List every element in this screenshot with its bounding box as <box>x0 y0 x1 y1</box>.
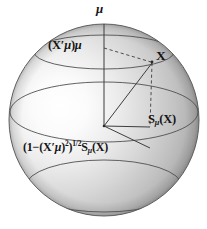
point-x-text: X <box>156 48 166 63</box>
bot-half-exponent: 1/2 <box>72 139 81 148</box>
proj-mu-outer: μ <box>75 38 82 52</box>
label-mu-text: μ <box>96 1 103 16</box>
smux-arg: X <box>163 112 172 126</box>
smux-s: S <box>148 112 155 126</box>
label-projection: (X′μ)μ <box>48 39 82 52</box>
bot-s-paren-close: ) <box>104 140 108 154</box>
label-point-x: X <box>156 49 166 63</box>
bot-s-arg: X <box>96 140 104 154</box>
label-tangent-vector: Sμ(X) <box>148 113 176 126</box>
sphere-diagram-figure: μ (X′μ)μ X Sμ(X) (1−(X′μ)2)1/2Sμ(X) <box>0 0 207 229</box>
proj-x: X <box>52 38 61 52</box>
smux-paren-close: ) <box>172 112 176 126</box>
point-x-marker <box>151 61 154 64</box>
label-scaled-tangent: (1−(X′μ)2)1/2Sμ(X) <box>23 141 108 153</box>
center-marker <box>103 125 106 128</box>
bot-x: X <box>43 140 51 154</box>
proj-mu-inner: μ <box>64 38 71 52</box>
label-mu-axis: μ <box>96 2 103 15</box>
